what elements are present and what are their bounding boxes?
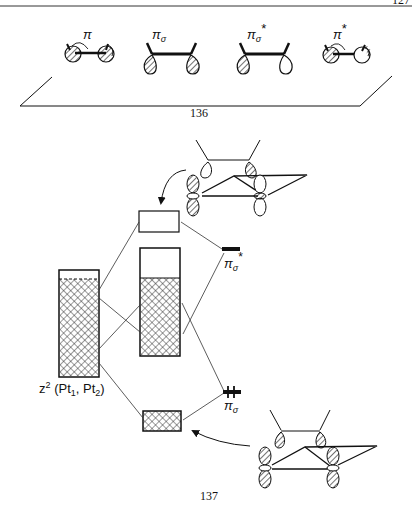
orbital-pi-sigma-star: πσ*: [237, 21, 292, 74]
diagram-canvas: 127 π πσ πσ*: [0, 0, 415, 515]
inset-pi-sigma-star: [161, 140, 307, 216]
figure-136-number: 136: [190, 106, 208, 120]
band-bottom-small: [143, 411, 181, 431]
header-page-number: 127: [392, 0, 410, 7]
svg-text:πσ: πσ: [152, 27, 167, 44]
level-pi-sigma-star: πσ*: [222, 247, 243, 273]
svg-text:πσ*: πσ*: [224, 250, 243, 273]
figure-136: π πσ πσ* π*: [20, 21, 392, 120]
level-pi-sigma: πσ: [223, 386, 241, 415]
orbital-pi-star: π*: [323, 21, 370, 63]
svg-text:π*: π*: [333, 21, 347, 42]
orbital-pi-sigma: πσ: [144, 27, 199, 74]
label-z2-pt1-pt2: z2 (Pt1, Pt2): [39, 380, 105, 398]
figure-137: πσ* πσ z2 (Pt1, Pt2) 1: [39, 140, 377, 503]
label-pi: π: [83, 27, 92, 42]
svg-text:πσ*: πσ*: [247, 21, 266, 44]
orbital-pi: π: [65, 27, 114, 62]
inset-pi-sigma: [193, 410, 377, 488]
svg-text:πσ: πσ: [224, 398, 239, 415]
arrow-to-bottom-box: [193, 431, 250, 446]
band-top-small: [139, 211, 179, 232]
molecular-plane: [20, 76, 392, 106]
arrow-to-top-box: [161, 170, 186, 203]
figure-137-number: 137: [200, 489, 218, 503]
